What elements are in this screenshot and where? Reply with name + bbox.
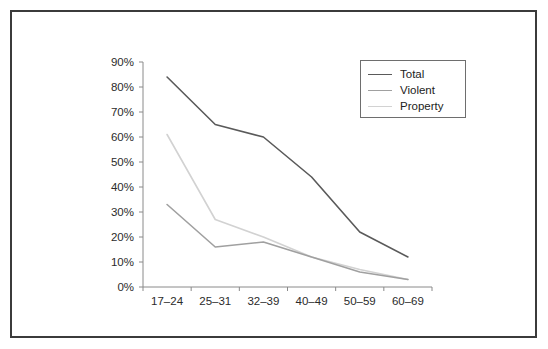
y-tick-labels: 0%10%20%30%40%50%60%70%80%90% [111,56,134,293]
y-tick-label: 60% [111,131,134,143]
y-tick-label: 80% [111,81,134,93]
x-tick-label: 50–59 [344,295,376,307]
y-tick-label: 30% [111,206,134,218]
x-tick-label: 25–31 [199,295,231,307]
line-chart: 0%10%20%30%40%50%60%70%80%90% 17–2425–31… [0,0,548,349]
x-tick-labels: 17–2425–3132–3940–4950–5960–69 [151,295,424,307]
x-tick-label: 17–24 [151,295,184,307]
y-tick-label: 40% [111,181,134,193]
chart-screenshot: 0%10%20%30%40%50%60%70%80%90% 17–2425–31… [0,0,548,349]
y-tick-label: 0% [117,281,134,293]
plot-area: 0%10%20%30%40%50%60%70%80%90% 17–2425–31… [0,0,548,349]
legend-label-total: Total [400,66,424,82]
series-line-violent [167,205,408,280]
x-tick-marks [143,287,432,291]
y-tick-label: 20% [111,231,134,243]
y-tick-label: 50% [111,156,134,168]
y-tick-marks [139,62,143,287]
y-tick-label: 70% [111,106,134,118]
chart-legend: Total Violent Property [360,60,466,118]
x-tick-label: 60–69 [392,295,424,307]
legend-item-violent: Violent [368,82,458,98]
legend-item-total: Total [368,66,458,82]
x-tick-label: 40–49 [296,295,328,307]
legend-label-property: Property [400,98,443,114]
legend-item-property: Property [368,98,458,114]
y-tick-label: 90% [111,56,134,68]
legend-swatch-violent [368,90,392,91]
legend-label-violent: Violent [400,82,435,98]
x-tick-label: 32–39 [247,295,279,307]
y-tick-label: 10% [111,256,134,268]
legend-swatch-property [368,106,392,107]
legend-swatch-total [368,74,392,75]
